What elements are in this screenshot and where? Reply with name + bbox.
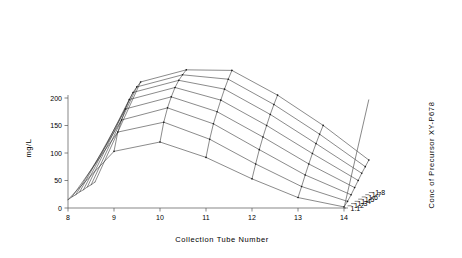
mesh-vertex: [364, 166, 366, 168]
mesh-vertex: [167, 107, 169, 109]
x-tick-label: 10: [156, 214, 164, 221]
mesh-vertex: [205, 157, 207, 159]
mesh-vertex: [231, 70, 233, 72]
mesh-vertex: [174, 87, 176, 89]
mesh-vertex: [361, 172, 363, 174]
mesh-vertex: [121, 119, 123, 121]
mesh-vertex: [220, 99, 222, 101]
mesh-profile-line: [83, 87, 358, 189]
mesh-vertex: [113, 151, 115, 153]
x-tick-label: 8: [66, 214, 70, 221]
mesh-vertex: [308, 163, 310, 165]
mesh-vertex: [182, 74, 184, 76]
mesh-vertex: [347, 201, 349, 203]
mesh-vertex: [255, 163, 257, 165]
mesh-vertex: [136, 86, 138, 88]
y-tick-labels: 050100150200: [50, 95, 62, 212]
mesh-vertex: [259, 149, 261, 151]
x-tick-labels: 891011121314: [66, 214, 348, 221]
mesh-vertex: [266, 125, 268, 127]
mesh-vertex: [227, 78, 229, 80]
mesh-vertex: [125, 108, 127, 110]
y-tick-label: 100: [50, 150, 62, 157]
z-tick-label: 1.8: [375, 189, 385, 196]
x-tick-label: 14: [340, 214, 348, 221]
mesh-vertex: [354, 187, 356, 189]
mesh-depth-line: [114, 82, 141, 151]
mesh-profile-line: [87, 80, 361, 187]
mesh-vertex: [216, 111, 218, 113]
z-axis-title: Conc of Precursor XY-P678: [427, 102, 436, 209]
mesh-vertex: [357, 180, 359, 182]
mesh-vertex: [273, 104, 275, 106]
y-axis-title: mg/L: [24, 138, 33, 157]
mesh-profile-line: [76, 108, 351, 195]
mesh-vertex: [269, 114, 271, 116]
chart-figure: 891011121314 050100150200 1.11.21.31.41.…: [0, 0, 462, 258]
mesh-vertex: [301, 186, 303, 188]
mesh-vertex: [350, 194, 352, 196]
z-tick-labels: 1.11.21.31.41.51.61.71.8: [351, 189, 386, 212]
mesh-vertex: [185, 69, 187, 71]
mesh-vertex: [315, 143, 317, 145]
x-tick-label: 11: [202, 214, 209, 221]
mesh-vertex: [132, 92, 134, 94]
x-tick-label: 12: [248, 214, 256, 221]
y-tick-label: 150: [50, 122, 62, 129]
wireframe-surface-plot: 891011121314 050100150200 1.11.21.31.41.…: [0, 0, 462, 258]
x-tick-label: 9: [112, 214, 116, 221]
mesh-vertex: [117, 131, 119, 133]
mesh-vertex: [262, 136, 264, 138]
x-axis-title: Collection Tube Number: [175, 235, 269, 244]
mesh-vertex: [170, 96, 172, 98]
mesh-vertex: [159, 141, 161, 143]
mesh-vertex: [251, 178, 253, 180]
mesh-depth-line: [160, 70, 186, 142]
mesh-vertex: [312, 153, 314, 155]
mesh-vertex: [297, 197, 299, 199]
mesh-vertex: [178, 80, 180, 82]
y-tick-label: 50: [54, 177, 62, 184]
y-tick-label: 200: [50, 95, 62, 102]
mesh-vertex: [368, 159, 370, 161]
y-tick-label: 0: [58, 205, 62, 212]
mesh-vertex: [304, 174, 306, 176]
x-tick-label: 13: [294, 214, 302, 221]
mesh-vertex: [224, 88, 226, 90]
mesh-surface: [68, 69, 370, 208]
mesh-vertex: [163, 121, 165, 123]
mesh-vertex: [213, 123, 215, 125]
mesh-vertex: [319, 133, 321, 135]
mesh-vertex: [322, 125, 324, 127]
mesh-depth-line: [252, 95, 278, 179]
mesh-vertex: [140, 81, 142, 83]
z-axis-line: [344, 100, 369, 209]
mesh-vertex: [209, 138, 211, 140]
mesh-profile-line: [68, 142, 344, 207]
mesh-vertex: [277, 94, 279, 96]
mesh-vertex: [128, 99, 130, 101]
